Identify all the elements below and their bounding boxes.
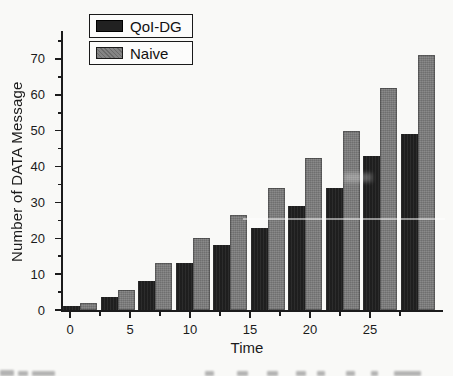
cropped-caption-fragment	[317, 371, 325, 376]
y-minor-tick	[58, 76, 62, 78]
y-minor-tick	[58, 220, 62, 222]
x-minor-tick	[399, 312, 401, 316]
x-major-tick	[189, 312, 191, 318]
y-major-tick	[55, 58, 61, 60]
x-tick-label: 5	[118, 322, 142, 337]
x-major-tick	[69, 312, 71, 318]
naive-bar-0	[80, 303, 97, 310]
x-tick-label: 25	[358, 322, 382, 337]
cropped-caption-fragment	[267, 371, 278, 376]
y-minor-tick	[58, 40, 62, 42]
y-axis-line	[61, 31, 63, 312]
y-tick-label: 50	[19, 123, 45, 138]
y-major-tick	[55, 309, 61, 311]
x-minor-tick	[339, 312, 341, 316]
legend: QoI-DG Naive	[89, 14, 193, 65]
y-minor-tick	[58, 148, 62, 150]
y-tick-label: 0	[19, 303, 45, 318]
y-tick-label: 30	[19, 195, 45, 210]
qoidg-bar-2	[138, 281, 155, 310]
x-tick-label: 0	[58, 322, 82, 337]
y-major-tick	[55, 94, 61, 96]
y-major-tick	[55, 166, 61, 168]
cropped-caption-fragment	[346, 371, 355, 376]
y-major-tick	[55, 130, 61, 132]
x-minor-tick	[99, 312, 101, 316]
x-minor-tick	[279, 312, 281, 316]
qoidg-bar-3	[176, 263, 193, 310]
x-minor-tick	[159, 312, 161, 316]
naive-series-swatch	[96, 47, 123, 59]
naive-bar-9	[418, 55, 435, 310]
legend-item-naive: Naive	[89, 41, 193, 65]
legend-item-qoidg: QoI-DG	[89, 14, 193, 38]
cropped-caption-fragment	[394, 371, 421, 376]
x-major-tick	[129, 312, 131, 318]
naive-bar-3	[193, 238, 210, 310]
x-major-tick	[369, 312, 371, 318]
cropped-caption-fragment	[205, 371, 214, 376]
y-tick-label: 70	[19, 51, 45, 66]
y-tick-label: 40	[19, 159, 45, 174]
qoidg-series-swatch	[96, 20, 123, 32]
x-minor-tick	[219, 312, 221, 316]
qoidg-bar-9	[401, 134, 418, 310]
x-tick-label: 20	[298, 322, 322, 337]
cropped-caption-fragment	[32, 371, 55, 376]
cropped-caption-fragment	[18, 371, 28, 376]
x-major-tick	[309, 312, 311, 318]
cropped-caption-fragment	[0, 370, 14, 376]
y-major-tick	[55, 202, 61, 204]
naive-bar-4	[230, 215, 247, 310]
naive-bar-5	[268, 188, 285, 310]
x-axis-line	[61, 310, 443, 312]
y-minor-tick	[58, 255, 62, 257]
y-major-tick	[55, 273, 61, 275]
naive-bar-7	[343, 131, 360, 310]
legend-label-naive: Naive	[130, 45, 168, 62]
y-major-tick	[55, 238, 61, 240]
qoidg-bar-4	[213, 245, 230, 310]
qoidg-bar-1	[101, 297, 118, 310]
x-tick-label: 10	[178, 322, 202, 337]
y-minor-tick	[58, 184, 62, 186]
qoidg-bar-8	[363, 156, 380, 310]
legend-label-qoidg: QoI-DG	[130, 18, 182, 35]
cropped-caption-fragment	[237, 371, 248, 376]
naive-bar-6	[305, 158, 322, 310]
y-minor-tick	[58, 112, 62, 114]
qoidg-bar-5	[251, 228, 268, 310]
x-tick-label: 15	[238, 322, 262, 337]
qoidg-bar-6	[288, 206, 305, 310]
x-major-tick	[249, 312, 251, 318]
qoidg-bar-7	[326, 188, 343, 310]
cropped-caption-fragment	[296, 371, 306, 376]
bar-chart-figure: Number of DATA Message Time 010203040506…	[0, 0, 453, 376]
y-tick-label: 60	[19, 87, 45, 102]
y-tick-label: 10	[19, 267, 45, 282]
y-minor-tick	[58, 291, 62, 293]
naive-bar-1	[118, 290, 135, 310]
x-axis-title: Time	[62, 339, 432, 356]
y-tick-label: 20	[19, 231, 45, 246]
cropped-caption-fragment	[371, 371, 378, 376]
naive-bar-8	[380, 88, 397, 310]
naive-bar-2	[155, 263, 172, 310]
